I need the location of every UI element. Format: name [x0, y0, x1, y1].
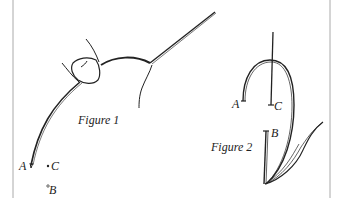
- figure1-label-c: C: [51, 160, 59, 172]
- point-c-dot: [47, 165, 49, 167]
- figure2-label-c: C: [274, 100, 282, 112]
- figure1-label-b: B: [49, 184, 56, 196]
- illustration-frame: Figure 1 A C B Figure 2 A C B: [0, 0, 337, 209]
- needle-thread-drawing: [0, 0, 337, 209]
- figure1-caption: Figure 1: [78, 114, 119, 126]
- figure2-label-a: A: [232, 98, 239, 110]
- figure2-caption: Figure 2: [211, 141, 252, 153]
- figure1-label-a: A: [19, 160, 26, 172]
- figure1-drawing: [30, 12, 216, 168]
- figure2-label-b: B: [271, 127, 278, 139]
